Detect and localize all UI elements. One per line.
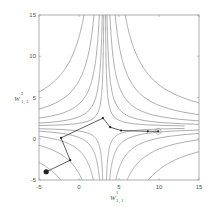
trajectory-point xyxy=(120,129,122,131)
svg-text:W: W xyxy=(14,95,21,103)
x-axis-label: W 1 1, 1 xyxy=(110,190,124,204)
svg-text:1, 1: 1, 1 xyxy=(116,198,124,204)
y-axis-label: W 2 1, 1 xyxy=(14,91,29,105)
trajectory-point xyxy=(60,137,62,139)
trajectory xyxy=(44,117,162,174)
trajectory-start-point xyxy=(44,169,49,174)
x-tick-label: 0 xyxy=(77,184,81,190)
y-axis-ticks: -5051015 xyxy=(29,12,199,183)
y-tick-label: 0 xyxy=(33,136,37,142)
plot-frame xyxy=(39,15,199,180)
trajectory-point xyxy=(147,130,149,132)
x-tick-label: 10 xyxy=(156,184,163,190)
y-tick-label: 10 xyxy=(29,53,36,59)
svg-text:1: 1 xyxy=(116,190,119,195)
y-tick-label: 15 xyxy=(29,12,36,18)
svg-text:1, 1: 1, 1 xyxy=(21,99,29,105)
x-axis-ticks: -5051015 xyxy=(36,15,203,190)
trajectory-point xyxy=(69,159,71,161)
x-tick-label: 15 xyxy=(196,184,203,190)
x-tick-label: -5 xyxy=(36,184,42,190)
contour-chart: -5051015 -5051015 W 1 1, 1 W 2 1, 1 xyxy=(0,0,218,213)
y-tick-label: -5 xyxy=(31,177,37,183)
trajectory-point xyxy=(102,117,104,119)
svg-text:2: 2 xyxy=(21,91,24,96)
trajectory-point xyxy=(109,126,111,128)
y-tick-label: 5 xyxy=(33,95,37,101)
trajectory-point xyxy=(157,130,159,132)
